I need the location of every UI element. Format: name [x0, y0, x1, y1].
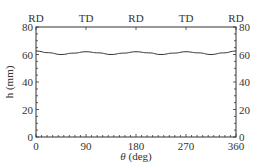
top-direction-label: RD	[228, 12, 243, 24]
axis-ticks	[36, 27, 236, 137]
y-tick-label-right: 40	[239, 76, 251, 88]
x-tick-label: 270	[178, 140, 195, 152]
y-tick-label-left: 40	[22, 76, 34, 88]
tick-labels: 090180270360020406080020406080RDTDRDTDRD	[22, 12, 251, 152]
x-tick-label: 90	[81, 140, 93, 152]
data-line	[36, 51, 236, 54]
top-direction-label: TD	[179, 12, 194, 24]
top-direction-label: TD	[79, 12, 94, 24]
x-axis-unit-text: (deg)	[128, 150, 152, 163]
y-tick-label-right: 0	[239, 131, 245, 143]
y-axis-label: h (mm)	[3, 65, 16, 98]
y-tick-label-right: 20	[239, 104, 251, 116]
chart: 090180270360020406080020406080RDTDRDTDRD…	[0, 0, 262, 165]
x-axis-label: θ (deg)	[120, 150, 152, 163]
plot-frame	[36, 27, 236, 137]
top-direction-label: RD	[128, 12, 143, 24]
y-tick-label-left: 0	[28, 131, 34, 143]
x-tick-label: 0	[33, 140, 39, 152]
x-axis-symbol: θ	[120, 150, 126, 162]
y-tick-label-left: 20	[22, 104, 34, 116]
y-tick-label-right: 60	[239, 49, 251, 61]
top-direction-label: RD	[28, 12, 43, 24]
y-tick-label-left: 60	[22, 49, 34, 61]
